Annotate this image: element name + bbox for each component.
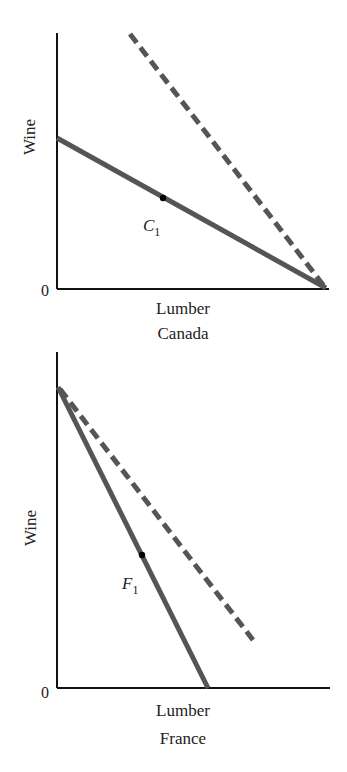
point-label-f1: F1 (121, 574, 138, 597)
trade-line-dashed (130, 34, 324, 286)
point-c1 (160, 195, 166, 201)
point-label-c1: C1 (143, 216, 160, 239)
chart-france: Wine 0 Lumber France F1 (21, 352, 330, 748)
trade-line-dashed (60, 389, 253, 640)
country-label: Canada (158, 324, 209, 343)
ppf-figure: Wine 0 Lumber Canada C1 Wine 0 Lumber Fr… (0, 0, 347, 772)
x-axis-label: Lumber (156, 701, 210, 720)
point-f1 (139, 552, 145, 558)
y-axis-label: Wine (20, 119, 39, 155)
ppf-line-solid (58, 387, 208, 688)
country-label: France (160, 729, 206, 748)
origin-label: 0 (41, 684, 49, 701)
chart-canada: Wine 0 Lumber Canada C1 (20, 33, 329, 343)
x-axis-label: Lumber (156, 299, 210, 318)
y-axis-label: Wine (21, 510, 40, 546)
origin-label: 0 (41, 282, 49, 299)
ppf-line-solid (57, 138, 326, 288)
